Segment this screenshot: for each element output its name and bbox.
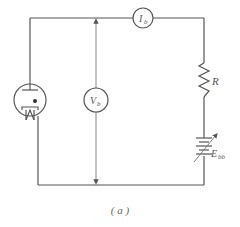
voltmeter-vb-icon: V b bbox=[84, 21, 108, 182]
ammeter-label: I bbox=[138, 13, 143, 24]
figure-caption: ( a ) bbox=[100, 204, 140, 216]
resistor-icon: R bbox=[199, 63, 219, 97]
battery-label-sub: bb bbox=[218, 153, 226, 161]
ammeter-ib-icon: I b bbox=[133, 8, 153, 28]
resistor-label: R bbox=[211, 75, 219, 87]
wire-loop bbox=[30, 18, 204, 185]
variable-battery-icon: E bb bbox=[194, 135, 226, 162]
ammeter-label-sub: b bbox=[144, 18, 148, 26]
triode-tube-icon bbox=[14, 84, 46, 120]
voltmeter-label-sub: b bbox=[97, 100, 101, 108]
battery-label: E bbox=[210, 148, 217, 159]
circuit-diagram: I b V b R E bb bbox=[0, 0, 240, 227]
